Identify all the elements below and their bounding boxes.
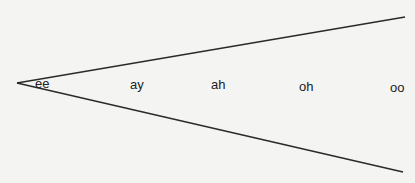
vowel-wedge-diagram (0, 0, 415, 183)
lower-wedge-line (17, 83, 403, 172)
vowel-label-ay: ay (130, 78, 144, 91)
vowel-label-ah: ah (211, 78, 225, 91)
vowel-label-oh: oh (299, 80, 313, 93)
vowel-label-oo: oo (390, 81, 404, 94)
vowel-label-ee: ee (35, 77, 49, 90)
upper-wedge-line (17, 17, 405, 83)
